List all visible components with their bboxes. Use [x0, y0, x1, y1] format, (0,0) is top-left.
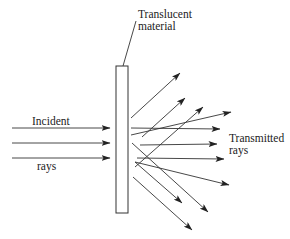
transmitted-ray-arrow: [131, 73, 180, 118]
transmitted-rays-label: rays: [229, 144, 249, 157]
incident-rays-label: rays: [37, 160, 57, 173]
transmitted-ray-arrow: [133, 177, 192, 230]
transmitted-ray-arrow: [135, 162, 229, 185]
transmitted-ray-arrow: [131, 128, 220, 129]
transmitted-label: Transmitted: [229, 132, 284, 144]
material-label-line1: Translucent: [138, 8, 193, 20]
material-leader-line: [123, 21, 136, 66]
incident-label: Incident: [32, 115, 70, 127]
transmitted-rays: [131, 73, 231, 230]
material-label-line2: material: [138, 20, 176, 32]
transmitted-ray-arrow: [140, 144, 217, 145]
translucent-transmission-diagram: Translucent material Incident rays Trans…: [0, 0, 290, 239]
transmitted-ray-arrow: [131, 112, 231, 135]
translucent-slab: [116, 66, 128, 213]
incident-rays: [12, 128, 110, 158]
